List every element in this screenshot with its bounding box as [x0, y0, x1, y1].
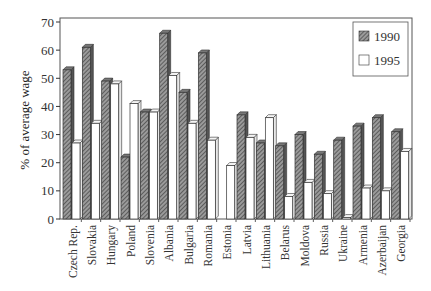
bar-1995 [91, 120, 102, 219]
x-tick-label: Slovenia [144, 225, 156, 265]
bar-side [215, 137, 218, 219]
bar-front [304, 182, 312, 219]
y-tick-label: 60 [41, 43, 54, 58]
legend-label-1995: 1995 [374, 53, 400, 68]
bar-front [334, 140, 342, 219]
bar-front [392, 132, 400, 219]
bar-1990 [334, 137, 345, 219]
y-axis: 010203040506070 [41, 15, 60, 227]
bar-front [295, 135, 303, 219]
bar-1995 [285, 193, 296, 219]
bar-1995 [381, 188, 392, 219]
bar-1995 [188, 120, 199, 219]
legend: 19901995 [353, 22, 408, 76]
bar-front [188, 123, 196, 219]
bar-1995 [265, 115, 276, 219]
x-tick-label: Albania [163, 225, 175, 261]
x-tick-label: Ukraine [337, 225, 349, 262]
bar-front [362, 188, 370, 219]
x-tick-label: Hungary [105, 225, 118, 265]
y-tick-label: 70 [41, 15, 54, 30]
y-axis-label: % of average wage [17, 55, 33, 185]
x-tick-label: Slovakia [86, 225, 98, 265]
x-tick-label: Poland [125, 225, 137, 257]
bar-front [401, 151, 409, 219]
bar-front [91, 123, 99, 219]
bar-1995 [304, 179, 315, 219]
bar-1995 [362, 185, 373, 219]
x-tick-label: Russia [318, 225, 330, 256]
bar-1995 [246, 134, 257, 219]
bar-front [160, 33, 168, 219]
bar-front [179, 92, 187, 219]
y-tick-label: 30 [41, 127, 54, 142]
bar-front [246, 137, 254, 219]
y-tick-label: 20 [41, 155, 54, 170]
bar-front [343, 218, 351, 219]
bar-front [227, 166, 235, 219]
bar-1995 [227, 163, 238, 219]
bar-1995 [169, 72, 180, 219]
x-tick-label: Armenia [357, 225, 369, 265]
x-tick-label: Azerbaijan [376, 225, 389, 276]
y-tick-label: 10 [41, 183, 54, 198]
bar-front [314, 154, 322, 219]
bar-front [82, 47, 90, 219]
legend-label-1990: 1990 [374, 29, 400, 44]
x-tick-label: Belarus [279, 224, 291, 260]
x-tick-label: Estonia [221, 225, 233, 260]
bar-side [409, 148, 412, 219]
bar-front [265, 118, 273, 219]
x-tick-label: Romania [202, 225, 214, 267]
bar-front [72, 143, 80, 219]
bar-front [285, 196, 293, 219]
x-tick-label: Lithuania [260, 225, 272, 269]
bar-front [130, 104, 138, 219]
bar-front [256, 143, 264, 219]
bar-1995 [207, 137, 218, 219]
bar-front [237, 115, 245, 219]
bar-front [276, 146, 284, 219]
bar-front [169, 75, 177, 219]
x-axis-labels: Czech Rep.SlovakiaHungaryPolandSloveniaA… [67, 224, 409, 278]
bar-front [372, 118, 380, 219]
x-tick-label: Moldova [299, 225, 311, 267]
bar-1995 [72, 140, 83, 219]
bar-front [323, 194, 331, 219]
x-tick-label: Latvia [241, 225, 253, 254]
bar-chart: 010203040506070 Czech Rep.SlovakiaHungar… [0, 0, 431, 291]
legend-swatch-1990 [359, 31, 369, 41]
y-tick-label: 40 [41, 99, 54, 114]
bar-front [63, 70, 71, 219]
bar-1995 [130, 101, 141, 219]
bar-front [353, 126, 361, 219]
bar-1995 [323, 191, 334, 219]
bar-1995 [149, 109, 160, 219]
y-tick-label: 50 [41, 71, 54, 86]
bar-front [102, 81, 110, 219]
x-tick-label: Bulgaria [183, 225, 196, 265]
bar-front [381, 191, 389, 219]
y-tick-label: 0 [48, 212, 55, 227]
x-tick-label: Georgia [395, 225, 408, 262]
legend-swatch-1995 [359, 55, 369, 65]
bar-side [342, 137, 345, 219]
bar-front [198, 53, 206, 219]
bar-1995 [111, 81, 122, 219]
bar-front [207, 140, 215, 219]
bar-front [149, 112, 157, 219]
bar-front [121, 157, 129, 219]
bar-1995 [401, 148, 412, 219]
bar-front [140, 112, 148, 219]
bar-front [111, 84, 119, 219]
x-tick-label: Czech Rep. [67, 225, 80, 278]
